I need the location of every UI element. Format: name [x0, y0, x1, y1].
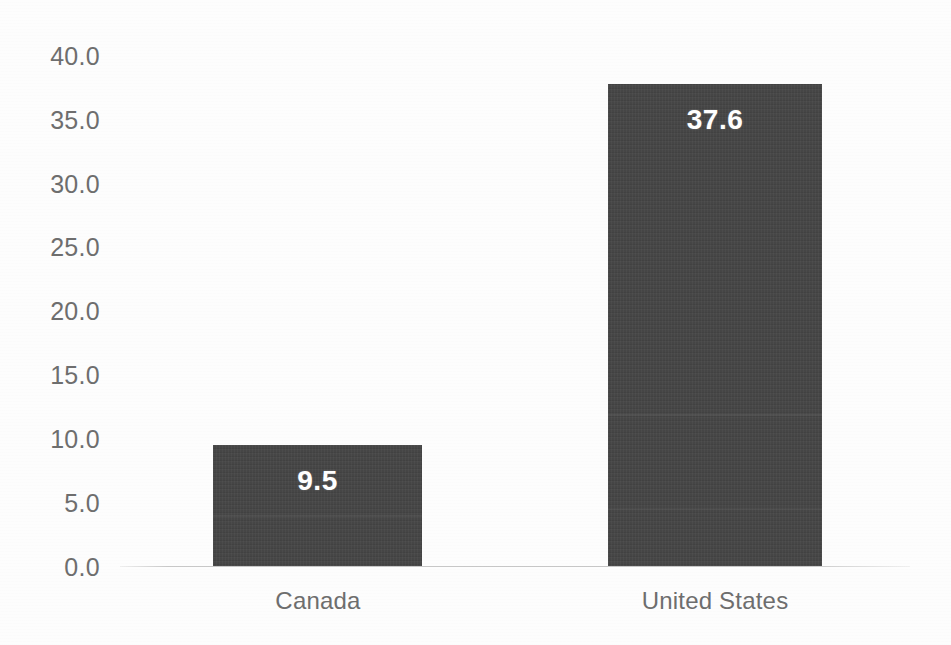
y-axis-tick-label: 30.0	[0, 172, 100, 197]
y-axis-tick-label: 5.0	[0, 491, 100, 516]
bar-value-label-united-states: 37.6	[608, 106, 822, 134]
bar-scan-streak	[213, 515, 422, 517]
y-axis-tick-label: 0.0	[0, 555, 100, 580]
bar-united-states: 37.6	[608, 84, 822, 566]
y-axis-tick-label: 40.0	[0, 44, 100, 69]
plot-area: 40.0 35.0 30.0 25.0 20.0 15.0 10.0 5.0 0…	[0, 0, 951, 645]
x-axis-baseline	[120, 566, 910, 567]
x-axis-category-label-canada: Canada	[198, 589, 438, 613]
y-axis-tick-label: 35.0	[0, 108, 100, 133]
y-axis-tick-label: 10.0	[0, 427, 100, 452]
bar-scan-streak	[608, 508, 822, 510]
y-axis-tick-label: 25.0	[0, 235, 100, 260]
y-axis-tick-label: 20.0	[0, 299, 100, 324]
y-axis-tick-label: 15.0	[0, 363, 100, 388]
bar-scan-streak	[608, 414, 822, 416]
bar-chart: 40.0 35.0 30.0 25.0 20.0 15.0 10.0 5.0 0…	[0, 0, 951, 645]
bar-canada: 9.5	[213, 445, 422, 566]
bar-value-label-canada: 9.5	[213, 467, 422, 495]
x-axis-category-label-united-states: United States	[595, 589, 835, 613]
